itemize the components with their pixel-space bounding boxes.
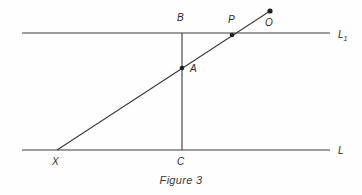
point-marker-P: [230, 33, 235, 38]
figure-caption: Figure 3: [0, 174, 362, 186]
line-label-L: L: [338, 146, 344, 156]
point-label-O: O: [265, 18, 273, 28]
point-marker-A: [180, 66, 185, 71]
figure-container: B P O A X C L1 L Figure 3: [0, 0, 362, 195]
point-label-C: C: [177, 157, 184, 167]
line-label-L-main: L: [338, 145, 344, 156]
point-marker-O: [267, 8, 272, 13]
geometry-diagram: [0, 0, 362, 172]
point-label-P: P: [228, 15, 235, 25]
point-label-X: X: [52, 157, 59, 167]
line-label-L1-subscript: 1: [344, 35, 348, 42]
ray-X-to-O-diagonal: [57, 11, 270, 150]
point-label-A: A: [190, 64, 197, 74]
line-label-L1: L1: [338, 30, 347, 42]
point-label-B: B: [177, 13, 184, 23]
